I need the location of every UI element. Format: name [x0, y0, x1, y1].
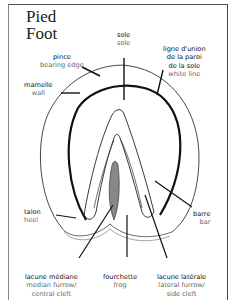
label-lacune-mediane: lacune médiane median furrow/ central cl…: [25, 273, 78, 298]
leader-lacune-laterale: [145, 195, 167, 258]
label-sole: sole sole: [117, 31, 130, 48]
label-ligne-dunion: ligne d'union de la paroi de la sole whi…: [163, 45, 206, 79]
label-barre: barre bar: [193, 210, 210, 227]
label-lacune-laterale: lacune latérale lateral furrow/ side cle…: [157, 273, 206, 298]
label-fourchette: fourchette frog: [103, 273, 137, 290]
label-mamelle: mamelle wall: [24, 81, 53, 98]
frog-outline: [84, 110, 154, 220]
label-talon: talon heel: [24, 208, 41, 225]
white-line-arc: [69, 86, 181, 220]
central-cleft: [109, 161, 119, 220]
leader-talon: [56, 215, 76, 218]
outer-hoof-outline: [40, 65, 199, 232]
label-pince: pince bearing edge: [40, 53, 84, 70]
